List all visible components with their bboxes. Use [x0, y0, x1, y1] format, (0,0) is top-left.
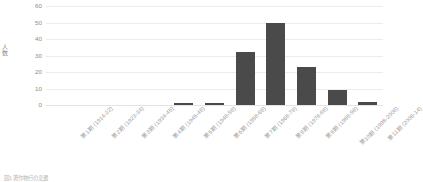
bar-slot: [113, 6, 132, 105]
bar[interactable]: [205, 103, 224, 105]
bar-slot: [297, 6, 316, 105]
y-tick-label: 30: [8, 52, 42, 58]
plot-area: [46, 6, 383, 105]
x-tick-label: 第1期 (1914-22): [80, 106, 114, 140]
bar[interactable]: [174, 103, 193, 105]
bar-slot: [144, 6, 163, 105]
figure-caption: 図1 著作物行の変遷: [4, 176, 49, 182]
x-tick-label: 第9期 (1988-98): [326, 106, 360, 140]
bar[interactable]: [358, 102, 377, 105]
bar[interactable]: [328, 90, 347, 105]
bar[interactable]: [266, 23, 285, 106]
x-tick-label: 第7期 (1968-78): [264, 106, 298, 140]
y-axis-tick-labels: 0102030405060: [4, 6, 42, 105]
y-tick-label: 0: [8, 102, 42, 108]
bar-slot: [82, 6, 101, 105]
y-tick-label: 50: [8, 19, 42, 25]
x-tick-label: 第10期 (1998-2008): [359, 106, 400, 147]
x-tick-label: 第4期 (1945-48): [172, 106, 206, 140]
bar-slot: [358, 6, 377, 105]
bar-series: [46, 6, 383, 105]
bar-slot: [52, 6, 71, 105]
y-tick-label: 60: [8, 3, 42, 9]
y-tick-label: 40: [8, 36, 42, 42]
bar-slot: [174, 6, 193, 105]
bar-slot: [236, 6, 255, 105]
bar[interactable]: [297, 67, 316, 105]
y-tick-label: 10: [8, 85, 42, 91]
bar[interactable]: [236, 52, 255, 105]
x-axis-tick-labels: 第1期 (1914-22)第2期 (1923-34)第3期 (1934-45)第…: [46, 106, 383, 168]
bar-slot: [205, 6, 224, 105]
bar-slot: [266, 6, 285, 105]
y-tick-label: 20: [8, 69, 42, 75]
bar-slot: [328, 6, 347, 105]
